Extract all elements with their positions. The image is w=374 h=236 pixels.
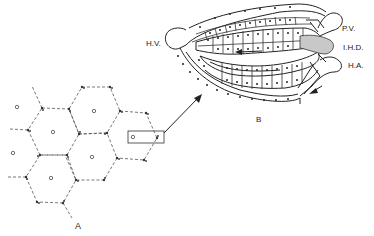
label-hepatic-vein: H.V. xyxy=(146,39,161,48)
panel-a-lobules xyxy=(8,86,164,218)
label-interlobular-duct: I.H.D. xyxy=(343,43,363,52)
panel-b-label: B xyxy=(256,115,261,124)
panel-a-label: A xyxy=(75,221,81,231)
label-portal-vein: P.V. xyxy=(342,24,355,33)
label-hepatic-artery: H.A. xyxy=(348,61,364,70)
panel-b-enlarged xyxy=(165,4,342,104)
magnification-arrow xyxy=(164,94,202,133)
magnified-region-box xyxy=(128,131,164,143)
bile-duct-shape xyxy=(300,35,333,54)
diagram-canvas: H.V. P.V. I.H.D. H.A. B A xyxy=(0,0,374,236)
